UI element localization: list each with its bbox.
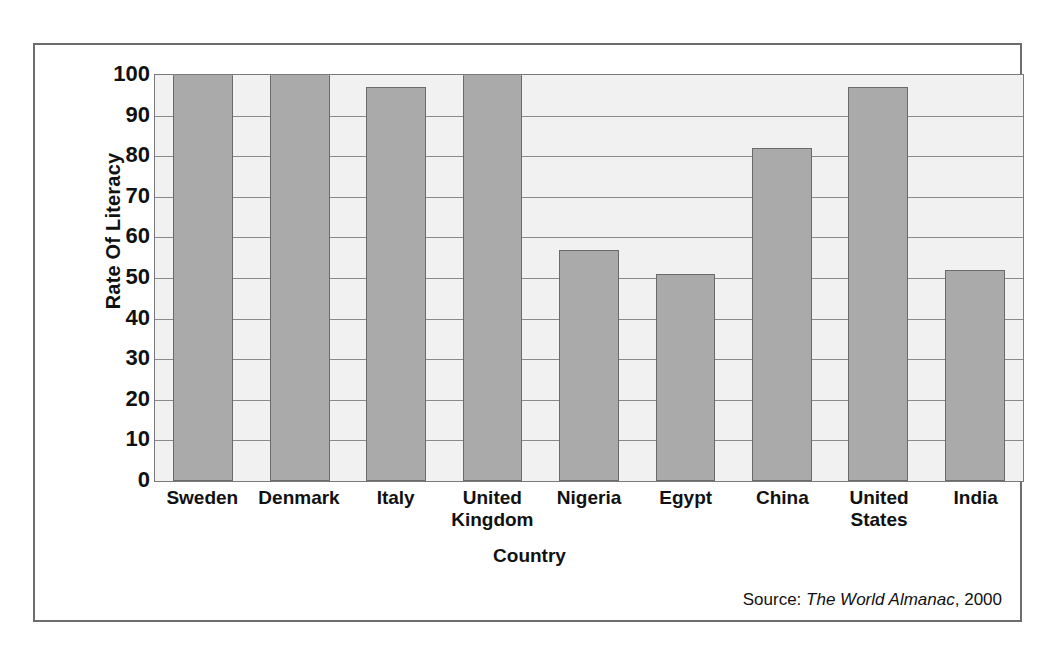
x-axis-tick-label: Sweden bbox=[154, 487, 251, 531]
source-prefix-label: Source: bbox=[743, 590, 802, 609]
bar[interactable] bbox=[366, 87, 426, 481]
bar-slot bbox=[927, 75, 1023, 481]
bar-series bbox=[155, 75, 1023, 481]
x-axis-tick-label: India bbox=[927, 487, 1024, 531]
y-axis-tick-label: 80 bbox=[93, 144, 150, 166]
y-axis-tick-labels: 1009080706050403020100 bbox=[93, 74, 150, 480]
bar[interactable] bbox=[270, 75, 330, 481]
x-axis-tick-label: United States bbox=[831, 487, 928, 531]
y-axis-tick-label: 30 bbox=[93, 347, 150, 369]
bar-slot bbox=[830, 75, 926, 481]
bar[interactable] bbox=[463, 75, 523, 481]
source-note: Source: The World Almanac, 2000 bbox=[743, 590, 1002, 610]
bar-slot bbox=[444, 75, 540, 481]
y-axis-tick-label: 100 bbox=[93, 63, 150, 85]
bar-slot bbox=[637, 75, 733, 481]
bar[interactable] bbox=[945, 270, 1005, 481]
plot-area bbox=[154, 74, 1024, 482]
x-axis-tick-label: Denmark bbox=[251, 487, 348, 531]
bar[interactable] bbox=[848, 87, 908, 481]
chart-figure-frame: Rate Of Literacy 1009080706050403020100 … bbox=[33, 43, 1022, 622]
y-axis-tick-label: 70 bbox=[93, 185, 150, 207]
y-axis-tick-label: 40 bbox=[93, 307, 150, 329]
y-axis-tick-label: 60 bbox=[93, 225, 150, 247]
y-axis-tick-label: 50 bbox=[93, 266, 150, 288]
source-title-label: The World Almanac bbox=[806, 590, 955, 609]
source-suffix-label: , 2000 bbox=[955, 590, 1002, 609]
bar-slot bbox=[348, 75, 444, 481]
x-axis-tick-label: Nigeria bbox=[541, 487, 638, 531]
x-axis-tick-label: Italy bbox=[347, 487, 444, 531]
y-axis-tick-label: 20 bbox=[93, 388, 150, 410]
bar[interactable] bbox=[173, 75, 233, 481]
bar-slot bbox=[541, 75, 637, 481]
y-axis-tick-label: 0 bbox=[93, 469, 150, 491]
x-axis-tick-label: United Kingdom bbox=[444, 487, 541, 531]
bar[interactable] bbox=[752, 148, 812, 481]
bar-slot bbox=[734, 75, 830, 481]
y-axis-tick-label: 10 bbox=[93, 428, 150, 450]
bar-slot bbox=[155, 75, 251, 481]
bar-slot bbox=[251, 75, 347, 481]
y-axis-tick-label: 90 bbox=[93, 104, 150, 126]
x-axis-title: Country bbox=[35, 545, 1024, 567]
x-axis-tick-label: Egypt bbox=[637, 487, 734, 531]
bar[interactable] bbox=[656, 274, 716, 481]
bar[interactable] bbox=[559, 250, 619, 481]
x-axis-tick-labels: SwedenDenmarkItalyUnited KingdomNigeriaE… bbox=[154, 487, 1024, 531]
x-axis-tick-label: China bbox=[734, 487, 831, 531]
